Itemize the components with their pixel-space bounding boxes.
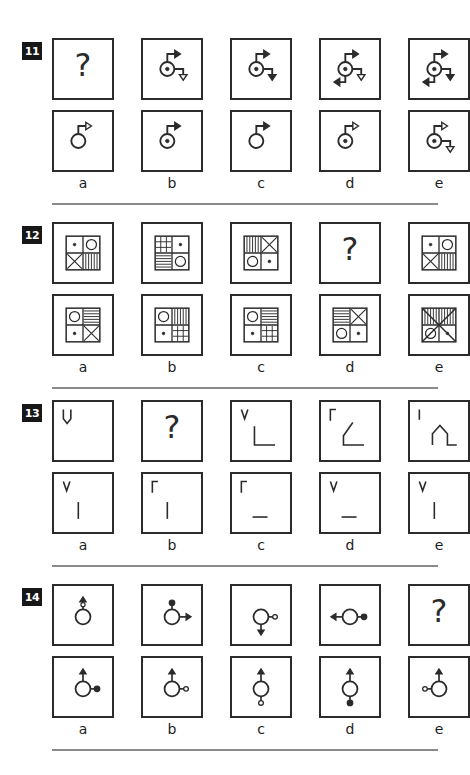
option-label-b[interactable]: b	[141, 175, 203, 191]
puzzle-cell-question-mark[interactable]: ?	[52, 38, 114, 100]
problem-row: ?	[52, 584, 470, 646]
puzzle-cell-stroke[interactable]	[319, 400, 381, 462]
option-cell-e[interactable]	[408, 656, 470, 718]
question-number-badge: 11	[22, 42, 42, 60]
option-cell-d[interactable]	[319, 472, 381, 534]
problem-row: ?	[52, 222, 470, 284]
option-cell-c[interactable]	[230, 294, 292, 356]
section-divider	[52, 565, 438, 567]
puzzle-cell-quad-tile[interactable]	[408, 222, 470, 284]
option-cell-c[interactable]	[230, 110, 292, 172]
option-cell-d[interactable]	[319, 110, 381, 172]
option-cell-b[interactable]	[141, 656, 203, 718]
puzzle-cell-arrow-hub[interactable]	[319, 38, 381, 100]
question-number-badge: 12	[22, 226, 42, 244]
section-divider	[52, 203, 438, 205]
puzzle-cell-node-circle[interactable]	[141, 584, 203, 646]
options-row	[52, 294, 470, 356]
option-cell-e[interactable]	[408, 472, 470, 534]
svg-text:?: ?	[342, 230, 359, 267]
puzzle-cell-node-circle[interactable]	[319, 584, 381, 646]
option-cell-a[interactable]	[52, 294, 114, 356]
section-divider	[52, 387, 438, 389]
puzzle-cell-arrow-hub[interactable]	[408, 38, 470, 100]
puzzle-cell-stroke[interactable]	[230, 400, 292, 462]
options-row	[52, 472, 470, 534]
svg-text:?: ?	[431, 592, 448, 629]
puzzle-cell-question-mark[interactable]: ?	[141, 400, 203, 462]
option-cell-c[interactable]	[230, 656, 292, 718]
option-label-d[interactable]: d	[319, 721, 381, 737]
puzzle-cell-question-mark[interactable]: ?	[408, 584, 470, 646]
option-cell-a[interactable]	[52, 472, 114, 534]
puzzle-cell-node-circle[interactable]	[230, 584, 292, 646]
option-label-d[interactable]: d	[319, 359, 381, 375]
puzzle-cell-stroke[interactable]	[408, 400, 470, 462]
option-label-b[interactable]: b	[141, 537, 203, 553]
option-label-c[interactable]: c	[230, 721, 292, 737]
option-cell-b[interactable]	[141, 472, 203, 534]
option-label-e[interactable]: e	[408, 175, 470, 191]
option-cell-d[interactable]	[319, 294, 381, 356]
section-divider	[52, 749, 438, 751]
option-cell-b[interactable]	[141, 110, 203, 172]
options-row	[52, 656, 470, 718]
option-labels: abcde	[52, 175, 470, 191]
option-label-b[interactable]: b	[141, 359, 203, 375]
option-label-a[interactable]: a	[52, 359, 114, 375]
option-label-c[interactable]: c	[230, 359, 292, 375]
option-labels: abcde	[52, 721, 470, 737]
svg-text:?: ?	[164, 408, 181, 445]
option-label-e[interactable]: e	[408, 359, 470, 375]
option-label-e[interactable]: e	[408, 721, 470, 737]
puzzle-cell-arrow-hub[interactable]	[230, 38, 292, 100]
puzzle-cell-arrow-hub[interactable]	[141, 38, 203, 100]
option-cell-a[interactable]	[52, 656, 114, 718]
problem-row: ?	[52, 38, 470, 100]
puzzle-cell-stroke[interactable]	[52, 400, 114, 462]
option-labels: abcde	[52, 537, 470, 553]
option-cell-b[interactable]	[141, 294, 203, 356]
option-label-d[interactable]: d	[319, 537, 381, 553]
option-label-c[interactable]: c	[230, 175, 292, 191]
option-label-a[interactable]: a	[52, 721, 114, 737]
option-label-a[interactable]: a	[52, 537, 114, 553]
option-label-d[interactable]: d	[319, 175, 381, 191]
puzzle-cell-quad-tile[interactable]	[141, 222, 203, 284]
option-cell-d[interactable]	[319, 656, 381, 718]
option-cell-e[interactable]	[408, 110, 470, 172]
svg-text:?: ?	[75, 46, 92, 83]
option-label-c[interactable]: c	[230, 537, 292, 553]
option-labels: abcde	[52, 359, 470, 375]
option-cell-a[interactable]	[52, 110, 114, 172]
puzzle-cell-node-circle[interactable]	[52, 584, 114, 646]
question-number-badge: 13	[22, 404, 42, 422]
question-number-badge: 14	[22, 588, 42, 606]
option-label-b[interactable]: b	[141, 721, 203, 737]
option-cell-c[interactable]	[230, 472, 292, 534]
puzzle-cell-quad-tile[interactable]	[52, 222, 114, 284]
problem-row: ?	[52, 400, 470, 462]
options-row	[52, 110, 470, 172]
option-cell-e[interactable]	[408, 294, 470, 356]
puzzle-cell-question-mark[interactable]: ?	[319, 222, 381, 284]
option-label-a[interactable]: a	[52, 175, 114, 191]
puzzle-cell-quad-tile[interactable]	[230, 222, 292, 284]
option-label-e[interactable]: e	[408, 537, 470, 553]
